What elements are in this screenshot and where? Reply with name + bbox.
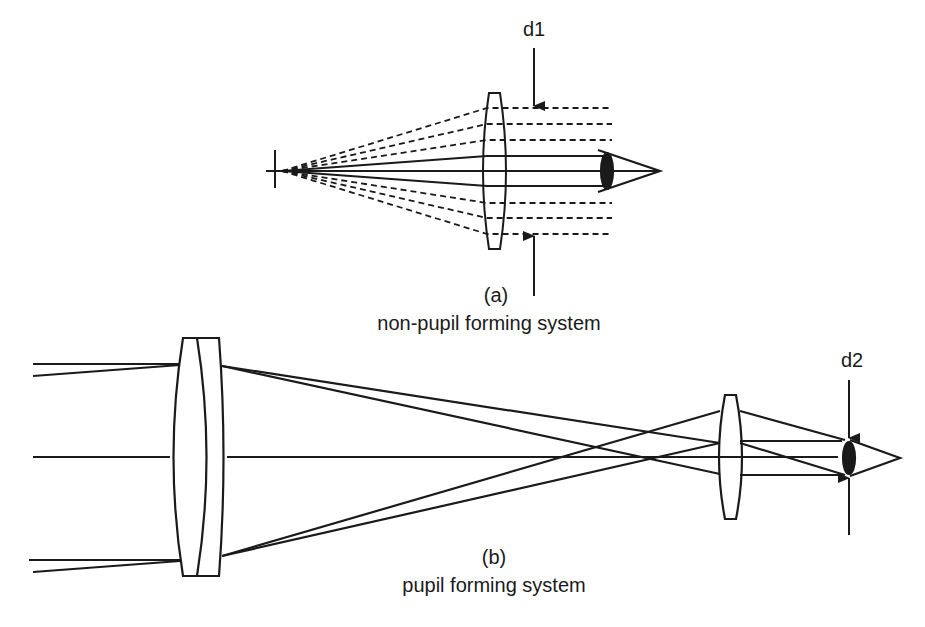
panel-b: d2 (b) pupil forming system xyxy=(29,338,900,596)
panel-a-label: (a) xyxy=(484,284,508,306)
exit-rays xyxy=(740,411,845,475)
panel-b-label: (b) xyxy=(482,546,506,568)
d2-label: d2 xyxy=(841,349,863,371)
panel-a: d1 (a) non-pupil forming system xyxy=(266,18,660,334)
d1-label: d1 xyxy=(523,18,545,40)
crossing-rays xyxy=(222,366,838,556)
doublet-lens-icon xyxy=(174,338,224,576)
incoming-rays xyxy=(29,364,180,572)
eye-icon-b xyxy=(843,440,900,476)
optical-diagram: d1 (a) non-pupil forming system xyxy=(0,0,925,627)
panel-a-caption: non-pupil forming system xyxy=(377,312,600,334)
panel-b-caption: pupil forming system xyxy=(402,574,585,596)
